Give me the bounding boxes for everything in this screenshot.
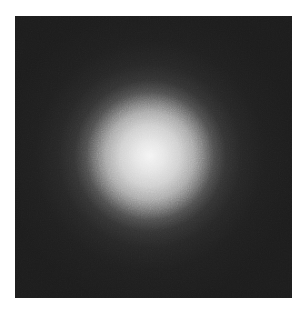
noise-texture — [15, 16, 292, 298]
image-frame — [15, 16, 292, 298]
